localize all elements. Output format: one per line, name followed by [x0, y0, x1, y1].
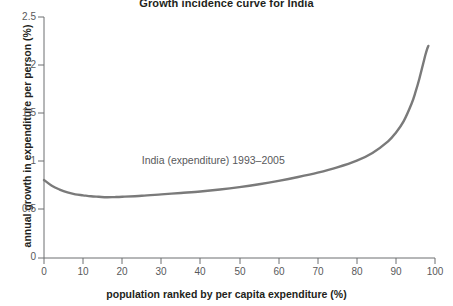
x-axis-ticks [44, 258, 435, 264]
y-axis-ticks [38, 17, 44, 258]
plot-area [0, 0, 453, 306]
growth-incidence-chart: Growth incidence curve for India annual … [0, 0, 453, 306]
axis-lines [44, 17, 435, 258]
data-series-line [44, 46, 428, 197]
